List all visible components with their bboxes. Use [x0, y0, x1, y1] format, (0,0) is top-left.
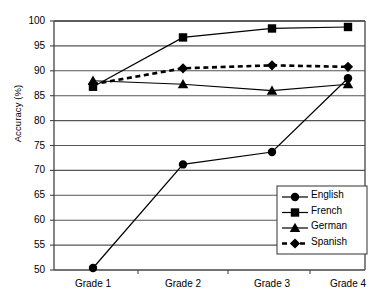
data-point-square	[344, 23, 352, 31]
series-french	[89, 23, 352, 91]
series-spanish	[88, 60, 353, 89]
data-point-circle	[89, 264, 97, 272]
y-tick-label: 75	[11, 141, 45, 151]
legend-marker-square	[291, 208, 299, 216]
data-point-circle	[268, 148, 276, 156]
y-tick-label: 85	[11, 91, 45, 101]
y-tick-label: 60	[11, 215, 45, 225]
legend-box: EnglishFrenchGermanSpanish	[277, 186, 367, 254]
data-point-diamond	[267, 60, 277, 70]
y-tick-label: 100	[11, 16, 45, 26]
x-tick-label: Grade 4	[303, 279, 382, 289]
y-tick-label: 50	[11, 265, 45, 275]
data-point-square	[268, 24, 276, 32]
x-tick-label: Grade 2	[138, 279, 228, 289]
legend-marker-circle	[291, 193, 299, 201]
plot-canvas: EnglishFrenchGermanSpanish	[0, 0, 382, 304]
axis-tick-marks	[50, 21, 310, 274]
y-tick-label: 90	[11, 66, 45, 76]
legend-label-english: English	[311, 190, 366, 200]
y-tick-label: 80	[11, 116, 45, 126]
series-line	[93, 81, 348, 91]
y-tick-label: 65	[11, 190, 45, 200]
accuracy-by-grade-line-chart: Accuracy (%) 10095908580757065605550 Gra…	[0, 0, 382, 304]
legend-label-spanish: Spanish	[311, 237, 366, 247]
legend-label-french: French	[311, 206, 366, 216]
data-point-circle	[179, 160, 187, 168]
data-point-square	[179, 33, 187, 41]
y-tick-label: 55	[11, 240, 45, 250]
legend-label-german: German	[311, 221, 366, 231]
x-tick-label: Grade 1	[48, 279, 138, 289]
y-tick-label: 70	[11, 165, 45, 175]
series-line	[93, 65, 348, 84]
y-tick-label: 95	[11, 41, 45, 51]
data-point-diamond	[178, 63, 188, 73]
data-point-triangle	[343, 79, 354, 88]
